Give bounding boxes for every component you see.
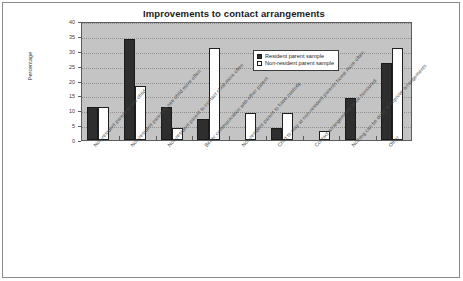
chart-legend: Resident parent sample Non-resident pare… <box>253 50 339 71</box>
y-tick-label: 15 <box>69 93 75 99</box>
y-tick-label: 35 <box>69 34 75 40</box>
legend-swatch-non-resident-icon <box>257 61 262 66</box>
y-tick-label: 40 <box>69 19 75 25</box>
bar-resident <box>124 39 135 140</box>
y-tick-label: 20 <box>69 79 75 85</box>
y-tick-label: 5 <box>72 123 75 129</box>
legend-label-non-resident: Non-resident parent sample <box>265 61 334 67</box>
bars-layer <box>82 23 411 140</box>
y-tick-label: 10 <box>69 108 75 114</box>
y-axis-ticks: 0510152025303540 <box>3 22 81 141</box>
plot-area <box>81 22 412 141</box>
legend-label-resident: Resident parent sample <box>265 54 324 60</box>
y-tick-label: 30 <box>69 49 75 55</box>
legend-swatch-resident-icon <box>257 54 262 59</box>
x-axis-labels: Non-resident parent to see childNon-resi… <box>0 138 463 278</box>
legend-item-resident: Resident parent sample <box>257 54 334 60</box>
legend-item-non-resident: Non-resident parent sample <box>257 61 334 67</box>
bar-resident <box>87 107 98 140</box>
bar-resident <box>197 119 208 140</box>
chart-title: Improvements to contact arrangements <box>69 8 399 19</box>
y-tick-label: 25 <box>69 64 75 70</box>
